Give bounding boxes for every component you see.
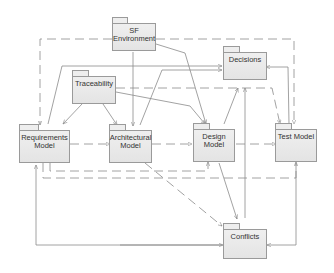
package-label: Test Model (278, 133, 314, 141)
package-diagram: SF Environment Decisions Traceability Re… (0, 0, 334, 273)
package-body: SF Environment (112, 23, 156, 51)
package-body: Decisions (223, 52, 267, 80)
package-sf-environment[interactable]: SF Environment (112, 17, 156, 51)
package-body: Conflicts (223, 229, 267, 259)
package-conflicts[interactable]: Conflicts (223, 223, 267, 259)
package-label: Environment (113, 35, 155, 43)
package-decisions[interactable]: Decisions (223, 46, 267, 80)
package-body: Architectural Model (109, 130, 152, 163)
package-architectural-model[interactable]: Architectural Model (109, 124, 152, 163)
package-body: Traceability (72, 76, 116, 104)
package-test-model[interactable]: Test Model (275, 123, 317, 162)
package-design-model[interactable]: Design Model (193, 123, 235, 162)
package-body: Design Model (193, 129, 235, 162)
package-label: Decisions (229, 56, 262, 64)
package-body: Test Model (275, 129, 317, 162)
package-label: Traceability (75, 80, 113, 88)
package-traceability[interactable]: Traceability (72, 70, 116, 104)
package-label: Model (120, 142, 140, 150)
package-label: Model (204, 141, 224, 149)
package-label: Conflicts (231, 233, 260, 241)
package-requirements-model[interactable]: Requirements Model (19, 124, 70, 163)
package-body: Requirements Model (19, 130, 70, 163)
package-label: Model (34, 142, 54, 150)
